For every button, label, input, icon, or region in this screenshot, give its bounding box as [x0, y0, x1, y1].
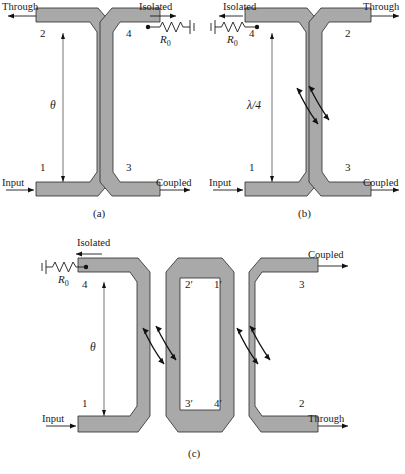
- resistor-sub-a: 0: [167, 39, 171, 48]
- panel-c: Isolated Coupled Input Through R0 4 2′ 1…: [40, 236, 370, 474]
- port-label-2-c: 2: [299, 398, 305, 409]
- coupling-arrow-left-1-head-b-c: [158, 358, 164, 364]
- port-label-4-b: 4: [249, 28, 255, 39]
- port-label-3-b: 3: [345, 162, 351, 173]
- port-label-3p-c: 3′: [185, 398, 193, 409]
- theta-dim-head-bottom-c: [102, 410, 106, 416]
- label-isolated-c: Isolated: [77, 238, 110, 249]
- trace-middle-c: [166, 258, 234, 432]
- trace-left-c: [78, 258, 150, 432]
- port-label-2-a: 2: [40, 28, 46, 39]
- port-label-2p-c: 2′: [185, 279, 193, 290]
- resistor-label-a: R0: [160, 34, 171, 48]
- theta-label-c: θ: [90, 342, 96, 354]
- label-input-a: Input: [2, 178, 24, 189]
- lambda-dim-head-bottom-b: [270, 176, 274, 182]
- theta-dim-head-bottom-a: [61, 176, 65, 182]
- theta-label-a: θ: [50, 100, 56, 112]
- port-label-4-c: 4: [82, 279, 88, 290]
- input-arrow-head-b: [237, 187, 243, 192]
- resistor-sub-c: 0: [65, 279, 69, 288]
- label-input-c: Input: [42, 414, 64, 425]
- theta-dim-head-top-a: [61, 33, 65, 39]
- coupled-arrow-head-c: [342, 263, 348, 268]
- lambda-label-b: λ/4: [247, 100, 261, 112]
- resistor-symbol-a: R: [160, 33, 167, 45]
- port-label-3-a: 3: [126, 162, 132, 173]
- panel-a: Through Isolated Input Coupled 2 4 1 3 θ…: [0, 0, 200, 230]
- label-through-c: Through: [308, 414, 344, 425]
- isolated-arrow-head-b: [219, 13, 225, 18]
- port-label-1-c: 1: [82, 398, 88, 409]
- label-coupled-a: Coupled: [156, 178, 192, 189]
- trace-right-c: [249, 258, 318, 432]
- port-label-1p-c: 1′: [214, 279, 222, 290]
- caption-a: (a): [93, 208, 105, 219]
- port-label-3-c: 3: [299, 279, 305, 290]
- isolated-arrow-head-c: [76, 251, 82, 256]
- label-coupled-c: Coupled: [308, 250, 344, 261]
- resistor-label-c: R0: [58, 274, 69, 288]
- resistor-label-b: R0: [227, 34, 238, 48]
- label-input-b: Input: [209, 178, 231, 189]
- port-label-2-b: 2: [345, 28, 351, 39]
- panel-b: Isolated Through Input Coupled 4 2 1 3 λ…: [205, 0, 405, 230]
- isolated-arrow-head-a: [170, 13, 176, 18]
- through-arrow-head-b: [393, 13, 399, 18]
- label-coupled-b: Coupled: [363, 178, 399, 189]
- port-label-1-b: 1: [249, 162, 255, 173]
- label-through-a: Through: [2, 2, 38, 13]
- port-label-4-a: 4: [126, 28, 132, 39]
- caption-b: (b): [298, 208, 311, 219]
- input-arrow-head-c: [70, 423, 76, 428]
- port-label-4p-c: 4′: [214, 398, 222, 409]
- label-isolated-b: Isolated: [223, 2, 256, 13]
- caption-c: (c): [188, 448, 200, 459]
- resistor-symbol-b: R: [227, 33, 234, 45]
- input-arrow-head-a: [28, 187, 34, 192]
- lambda-dim-head-top-b: [270, 33, 274, 39]
- trace-right-b: [309, 8, 371, 196]
- resistor-sub-b: 0: [234, 39, 238, 48]
- resistor-a: [148, 22, 190, 32]
- port-label-1-a: 1: [40, 162, 46, 173]
- resistor-symbol-c: R: [58, 273, 65, 285]
- through-arrow-head-a: [8, 13, 14, 18]
- label-isolated-a: Isolated: [139, 2, 172, 13]
- theta-dim-head-top-c: [102, 282, 106, 288]
- label-through-b: Through: [363, 2, 399, 13]
- trace-left-a: [36, 8, 110, 196]
